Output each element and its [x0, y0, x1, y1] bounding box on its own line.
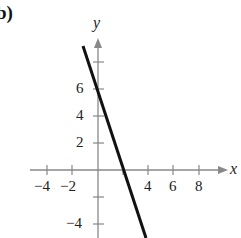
y-axis-arrow-icon — [94, 38, 102, 48]
y-axis-label: y — [93, 14, 100, 32]
data-line — [83, 46, 146, 238]
x-tick-label: −4 — [34, 178, 50, 195]
x-tick-label: 4 — [144, 178, 152, 195]
y-tick-label: 4 — [76, 107, 84, 124]
x-tick-label: 8 — [195, 178, 203, 195]
x-axis — [30, 165, 228, 175]
x-axis-arrow-icon — [218, 166, 228, 174]
x-tick-label: −2 — [60, 178, 76, 195]
x-tick-label: 6 — [169, 178, 177, 195]
y-tick-label: −4 — [66, 215, 82, 232]
x-axis-label: x — [230, 160, 237, 178]
y-tick-label: 6 — [76, 80, 84, 97]
y-tick-label: 2 — [76, 134, 84, 151]
y-axis — [93, 38, 104, 238]
chart — [0, 0, 241, 238]
